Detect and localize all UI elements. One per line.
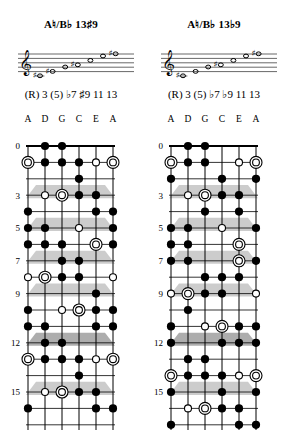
note-dot-filled[interactable]: [92, 404, 100, 412]
fret-note-s5-f1-open[interactable]: [93, 159, 100, 166]
fret-note-s5-f6-root[interactable]: [233, 238, 245, 250]
root-dot-inner-ring[interactable]: [202, 405, 209, 412]
fret-note-s1-f6-filled[interactable]: [24, 240, 32, 248]
root-dot-inner-ring[interactable]: [25, 356, 32, 363]
fret-note-s1-f9-open[interactable]: [168, 290, 175, 297]
note-dot-filled[interactable]: [109, 306, 117, 314]
note-dot-filled[interactable]: [235, 191, 243, 199]
root-dot-inner-ring[interactable]: [110, 159, 117, 166]
fret-note-s3-f0-filled[interactable]: [58, 142, 66, 150]
fret-note-s5-f3-filled[interactable]: [235, 191, 243, 199]
fret-note-s6-f2-filled[interactable]: [252, 175, 260, 183]
note-dot-filled[interactable]: [58, 142, 66, 150]
fret-note-s6-f10-filled[interactable]: [109, 306, 117, 314]
note-dot-filled[interactable]: [184, 240, 192, 248]
note-dot-filled[interactable]: [92, 290, 100, 298]
note-dot-filled[interactable]: [41, 322, 49, 330]
fret-note-s3-f14-filled[interactable]: [201, 372, 209, 380]
note-dot-open[interactable]: [25, 274, 32, 281]
fret-note-s4-f8-filled[interactable]: [218, 273, 226, 281]
root-dot-inner-ring[interactable]: [236, 257, 243, 264]
note-dot-filled[interactable]: [109, 322, 117, 330]
fret-note-s5-f10-filled[interactable]: [92, 306, 100, 314]
fret-note-s5-f13-open[interactable]: [93, 356, 100, 363]
fret-note-s6-f4-filled[interactable]: [109, 208, 117, 216]
note-dot-filled[interactable]: [201, 208, 209, 216]
note-dot-filled[interactable]: [41, 240, 49, 248]
note-dot-filled[interactable]: [75, 355, 83, 363]
note-dot-filled[interactable]: [218, 191, 226, 199]
fret-note-s4-f15-filled[interactable]: [75, 388, 83, 396]
fret-note-s1-f7-filled[interactable]: [167, 257, 175, 265]
fret-note-s2-f5-filled[interactable]: [184, 224, 192, 232]
note-dot-filled[interactable]: [252, 224, 260, 232]
note-dot-filled[interactable]: [167, 339, 175, 347]
note-dot-filled[interactable]: [252, 257, 260, 265]
note-dot-filled[interactable]: [75, 175, 83, 183]
note-dot-filled[interactable]: [167, 224, 175, 232]
fret-note-s1-f1-root[interactable]: [165, 156, 177, 168]
note-dot-filled[interactable]: [75, 372, 83, 380]
note-dot-filled[interactable]: [252, 421, 260, 429]
fret-note-s3-f4-filled[interactable]: [201, 208, 209, 216]
root-dot-inner-ring[interactable]: [236, 241, 243, 248]
note-dot-open[interactable]: [42, 389, 49, 396]
note-dot-open[interactable]: [110, 274, 117, 281]
fretboard-left[interactable]: 035791215: [0, 130, 142, 430]
fret-note-s3-f7-filled[interactable]: [58, 257, 66, 265]
fret-note-s5-f11-filled[interactable]: [92, 322, 100, 330]
note-dot-filled[interactable]: [167, 388, 175, 396]
fret-note-s1-f11-filled[interactable]: [167, 322, 175, 330]
fret-note-s5-f15-filled[interactable]: [92, 388, 100, 396]
fret-note-s6-f5-filled[interactable]: [252, 224, 260, 232]
note-dot-filled[interactable]: [24, 404, 32, 412]
root-dot-inner-ring[interactable]: [110, 356, 117, 363]
fret-note-s5-f11-filled[interactable]: [235, 322, 243, 330]
note-dot-filled[interactable]: [109, 404, 117, 412]
root-dot-inner-ring[interactable]: [253, 159, 260, 166]
fretboard-right[interactable]: 035791215: [143, 130, 285, 430]
note-dot-filled[interactable]: [184, 158, 192, 166]
fret-note-s5-f14-open[interactable]: [236, 372, 243, 379]
fret-note-s4-f8-filled[interactable]: [75, 273, 83, 281]
fret-note-s2-f13-filled[interactable]: [41, 355, 49, 363]
note-dot-filled[interactable]: [201, 158, 209, 166]
note-dot-filled[interactable]: [201, 355, 209, 363]
fret-note-s6-f6-filled[interactable]: [109, 240, 117, 248]
fret-note-s3-f6-filled[interactable]: [58, 240, 66, 248]
fret-note-s5-f7-root[interactable]: [233, 255, 245, 267]
fret-note-s5-f4-filled[interactable]: [235, 208, 243, 216]
fret-note-s2-f0-filled[interactable]: [41, 142, 49, 150]
note-dot-filled[interactable]: [201, 273, 209, 281]
fret-note-s3-f8-filled[interactable]: [201, 273, 209, 281]
note-dot-filled[interactable]: [252, 175, 260, 183]
fret-note-s2-f6-filled[interactable]: [41, 240, 49, 248]
note-dot-filled[interactable]: [167, 175, 175, 183]
fret-note-s5-f16-filled[interactable]: [92, 404, 100, 412]
fret-note-s6-f14-root[interactable]: [250, 370, 262, 382]
fret-note-s6-f7-filled[interactable]: [252, 257, 260, 265]
note-dot-filled[interactable]: [58, 158, 66, 166]
fret-note-s6-f1-root[interactable]: [250, 156, 262, 168]
note-dot-filled[interactable]: [75, 257, 83, 265]
fret-note-s4-f13-filled[interactable]: [75, 355, 83, 363]
fret-note-s1-f11-filled[interactable]: [24, 322, 32, 330]
fret-note-s1-f10-filled[interactable]: [24, 306, 32, 314]
fret-note-s2-f0-filled[interactable]: [184, 142, 192, 150]
fret-note-s2-f3-open[interactable]: [185, 192, 192, 199]
note-dot-filled[interactable]: [235, 421, 243, 429]
note-dot-filled[interactable]: [41, 339, 49, 347]
fret-note-s2-f1-filled[interactable]: [41, 158, 49, 166]
note-dot-filled[interactable]: [24, 208, 32, 216]
note-dot-filled[interactable]: [167, 322, 175, 330]
note-dot-filled[interactable]: [235, 339, 243, 347]
note-dot-filled[interactable]: [109, 208, 117, 216]
note-dot-filled[interactable]: [75, 158, 83, 166]
fret-note-s2-f12-filled[interactable]: [41, 339, 49, 347]
note-dot-filled[interactable]: [41, 355, 49, 363]
root-dot-inner-ring[interactable]: [168, 372, 175, 379]
fret-note-s5-f16-filled[interactable]: [235, 404, 243, 412]
fret-note-s6-f11-filled[interactable]: [109, 322, 117, 330]
note-dot-filled[interactable]: [92, 306, 100, 314]
note-dot-open[interactable]: [168, 290, 175, 297]
